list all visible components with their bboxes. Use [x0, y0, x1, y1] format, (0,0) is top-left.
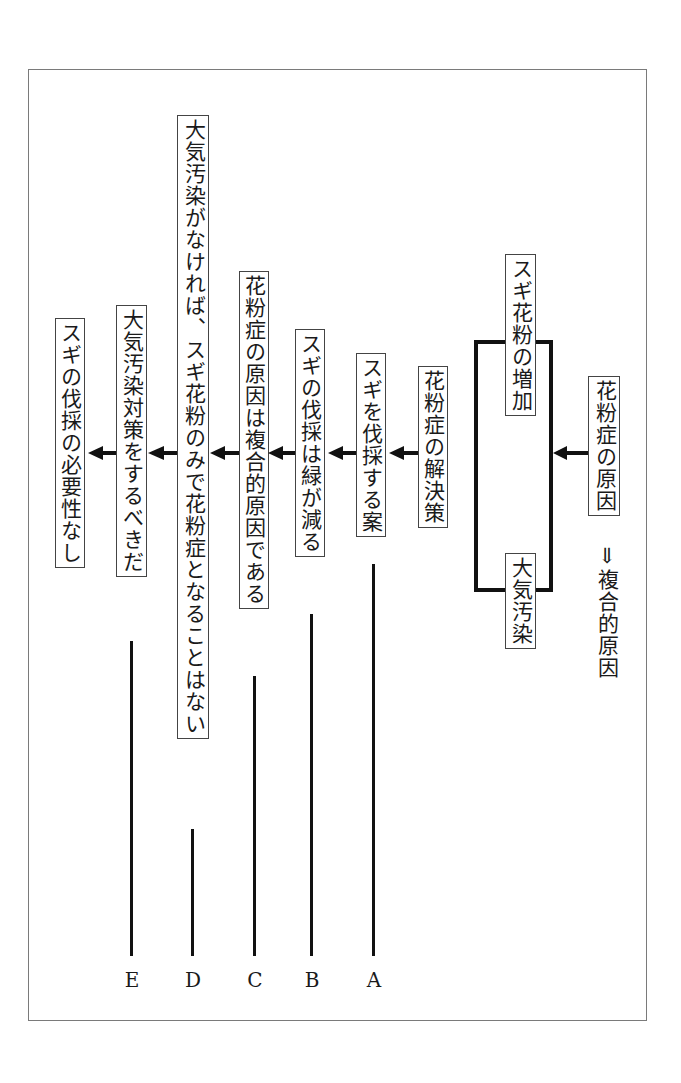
marker-label-e: E	[122, 968, 142, 992]
marker-line-b	[310, 614, 313, 956]
marker-line-d	[191, 829, 194, 956]
marker-label-d: D	[183, 968, 203, 992]
marker-label-a: A	[364, 968, 384, 992]
marker-label-c: C	[245, 968, 265, 992]
marker-label-b: B	[302, 968, 322, 992]
connector-arrows	[0, 0, 681, 1083]
marker-line-e	[130, 641, 133, 956]
marker-line-a	[372, 564, 375, 956]
marker-line-c	[253, 676, 256, 956]
